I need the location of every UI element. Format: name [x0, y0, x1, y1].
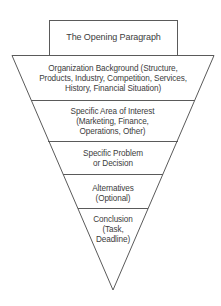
level-conclusion: Conclusion (Task, Deadline): [83, 215, 143, 245]
level-5-line-1: Conclusion: [83, 215, 143, 225]
level-2-line-1: Specific Area of Interest: [50, 107, 175, 117]
level-alternatives: Alternatives (Optional): [78, 184, 148, 204]
level-2-line-3: Operations, Other): [50, 127, 175, 137]
opening-paragraph-label: The Opening Paragraph: [50, 32, 177, 43]
level-1-line-3: History, Financial Situation): [28, 84, 198, 94]
level-5-line-2: (Task,: [83, 225, 143, 235]
level-4-line-1: Alternatives: [78, 184, 148, 194]
level-2-line-2: (Marketing, Finance,: [50, 117, 175, 127]
level-1-line-1: Organization Background (Structure,: [28, 64, 198, 74]
level-1-line-2: Products, Industry, Competition, Service…: [28, 74, 198, 84]
level-specific-area-of-interest: Specific Area of Interest (Marketing, Fi…: [50, 107, 175, 137]
level-3-line-1: Specific Problem: [63, 149, 163, 159]
level-specific-problem: Specific Problem or Decision: [63, 149, 163, 169]
level-4-line-2: (Optional): [78, 194, 148, 204]
level-5-line-3: Deadline): [83, 235, 143, 245]
level-3-line-2: or Decision: [63, 159, 163, 169]
level-organization-background: Organization Background (Structure, Prod…: [28, 64, 198, 94]
